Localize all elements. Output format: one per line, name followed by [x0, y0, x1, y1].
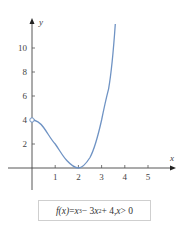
y-tick-label: 2: [23, 139, 28, 149]
caption-rest: + 4,: [101, 206, 116, 216]
function-curve: [32, 24, 115, 168]
y-axis-label: y: [38, 17, 43, 27]
function-plot: 1 2 3 4 5 2 4 6 8 10 x y: [0, 0, 184, 200]
caption-minus: − 3: [82, 206, 94, 216]
caption-cond: > 0: [121, 206, 133, 216]
caption-fx: f(x): [56, 206, 69, 216]
y-tick-label: 10: [18, 43, 28, 53]
x-tick-label: 3: [99, 172, 104, 182]
x-tick-label: 4: [123, 172, 128, 182]
function-caption: f(x) = x3 − 3x2 + 4, x > 0: [38, 200, 151, 221]
x-tick-label: 1: [53, 172, 58, 182]
y-axis-arrow-icon: [30, 18, 35, 24]
x-tick-label: 2: [76, 172, 81, 182]
x-tick-label: 5: [146, 172, 151, 182]
y-tick-label: 8: [23, 67, 28, 77]
open-endpoint-marker: [30, 118, 34, 122]
y-tick-label: 4: [23, 115, 28, 125]
x-axis-arrow-icon: [170, 166, 176, 171]
y-tick-label: 6: [23, 91, 28, 101]
x-axis-label: x: [169, 153, 174, 163]
